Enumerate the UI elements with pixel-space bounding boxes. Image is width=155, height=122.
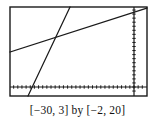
y-axis-tick-marks [132,10,135,91]
plot-area [0,0,155,100]
screen-background [10,7,147,96]
calculator-screen-svg [0,0,155,100]
window-range-caption: [−30, 3] by [−2, 20] [0,100,155,122]
graph-figure: [−30, 3] by [−2, 20] [0,0,155,122]
